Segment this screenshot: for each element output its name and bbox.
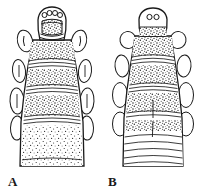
specimen-b [113,8,194,166]
specimen-a-clypeal-plate [42,19,62,35]
specimen-illustration-svg [0,0,206,196]
figure-root: A B [0,0,206,196]
specimen-b-head [139,8,167,36]
specimen-a-head [38,7,66,40]
panel-label-b: B [108,175,117,188]
panel-label-a: A [8,175,17,188]
specimen-b-clypeal-band [139,27,166,36]
